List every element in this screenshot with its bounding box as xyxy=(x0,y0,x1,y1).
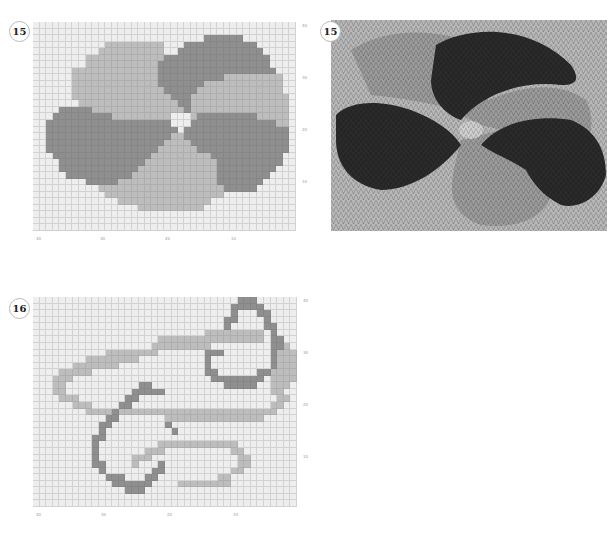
grid-cell xyxy=(211,500,218,507)
knitted-swatch-photo xyxy=(331,20,607,231)
y-tick: 40 xyxy=(302,23,307,28)
y-tick: 40 xyxy=(303,298,308,303)
grid-cell xyxy=(119,500,126,507)
grid-cell xyxy=(185,500,192,507)
grid-cell xyxy=(257,500,264,507)
grid-cell xyxy=(205,500,212,507)
grid-cell xyxy=(53,500,60,507)
chart-15-grid xyxy=(33,22,296,231)
y-tick: 10 xyxy=(302,179,307,184)
grid-cell xyxy=(289,224,296,231)
grid-cell xyxy=(132,224,139,231)
grid-cell xyxy=(218,500,225,507)
grid-cell xyxy=(73,500,80,507)
grid-cell xyxy=(283,224,290,231)
x-tick: 30 xyxy=(101,512,106,517)
grid-cell xyxy=(290,500,297,507)
x-tick: 40 xyxy=(36,512,41,517)
grid-cell xyxy=(243,224,250,231)
grid-cell xyxy=(92,500,99,507)
grid-cell xyxy=(238,500,245,507)
grid-cell xyxy=(244,500,251,507)
grid-cell xyxy=(152,500,159,507)
grid-cell xyxy=(118,224,125,231)
grid-cell xyxy=(40,224,47,231)
grid-cell xyxy=(158,500,165,507)
grid-cell xyxy=(79,224,86,231)
chart-16-grid xyxy=(33,297,297,507)
grid-cell xyxy=(145,500,152,507)
grid-cell xyxy=(237,224,244,231)
grid-cell xyxy=(138,224,145,231)
chart-16-badge: 16 xyxy=(9,298,30,319)
grid-cell xyxy=(198,500,205,507)
grid-cell xyxy=(270,224,277,231)
grid-cell xyxy=(224,500,231,507)
grid-cell xyxy=(86,500,93,507)
grid-cell xyxy=(66,500,73,507)
x-tick: 40 xyxy=(36,236,41,241)
grid-cell xyxy=(178,224,185,231)
grid-cell xyxy=(171,224,178,231)
grid-cell xyxy=(40,500,47,507)
chart-15-badge: 15 xyxy=(9,21,30,42)
grid-cell xyxy=(106,500,113,507)
grid-cell xyxy=(86,224,93,231)
grid-cell xyxy=(105,224,112,231)
grid-cell xyxy=(112,224,119,231)
y-tick: 30 xyxy=(303,350,308,355)
y-tick: 10 xyxy=(303,454,308,459)
grid-cell xyxy=(271,500,278,507)
grid-cell xyxy=(164,224,171,231)
grid-cell xyxy=(59,500,66,507)
grid-cell xyxy=(191,500,198,507)
grid-cell xyxy=(99,500,106,507)
grid-cell xyxy=(184,224,191,231)
y-tick: 20 xyxy=(303,402,308,407)
grid-cell xyxy=(230,224,237,231)
grid-cell xyxy=(172,500,179,507)
grid-cell xyxy=(139,500,146,507)
grid-cell xyxy=(53,224,60,231)
grid-cell xyxy=(151,224,158,231)
x-tick: 10 xyxy=(233,512,238,517)
grid-cell xyxy=(99,224,106,231)
grid-cell xyxy=(211,224,218,231)
x-tick: 10 xyxy=(231,236,236,241)
grid-cell xyxy=(284,500,291,507)
grid-cell xyxy=(79,500,86,507)
grid-cell xyxy=(251,500,258,507)
grid-cell xyxy=(165,500,172,507)
grid-cell xyxy=(277,500,284,507)
grid-cell xyxy=(178,500,185,507)
photo-15-badge: 15 xyxy=(320,21,341,42)
grid-cell xyxy=(263,224,270,231)
grid-cell xyxy=(231,500,238,507)
grid-cell xyxy=(72,224,79,231)
x-tick: 20 xyxy=(165,236,170,241)
grid-cell xyxy=(46,500,53,507)
grid-cell xyxy=(197,224,204,231)
x-tick: 30 xyxy=(100,236,105,241)
grid-cell xyxy=(264,500,271,507)
grid-cell xyxy=(112,500,119,507)
y-tick: 20 xyxy=(302,127,307,132)
grid-cell xyxy=(217,224,224,231)
grid-cell xyxy=(204,224,211,231)
y-tick: 30 xyxy=(302,75,307,80)
grid-cell xyxy=(125,500,132,507)
x-tick: 20 xyxy=(167,512,172,517)
grid-cell xyxy=(250,224,257,231)
grid-cell xyxy=(276,224,283,231)
grid-cell xyxy=(46,224,53,231)
grid-cell xyxy=(145,224,152,231)
grid-cell xyxy=(33,500,40,507)
grid-cell xyxy=(66,224,73,231)
grid-cell xyxy=(132,500,139,507)
knit-pattern-image xyxy=(331,20,607,231)
